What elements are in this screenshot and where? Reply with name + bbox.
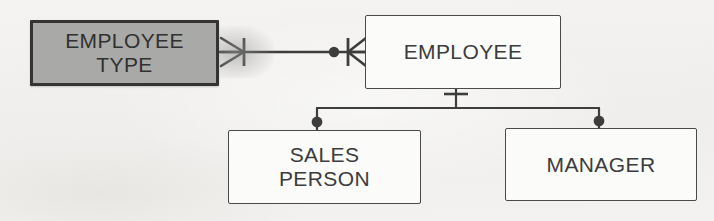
entity-box-employee-type[interactable]: EMPLOYEE TYPE xyxy=(30,20,219,86)
entity-box-employee[interactable]: EMPLOYEE xyxy=(365,15,561,89)
relationship-employee-type-to-employee xyxy=(219,38,366,66)
entity-box-manager[interactable]: MANAGER xyxy=(505,128,697,201)
entity-label-manager: MANAGER xyxy=(547,153,656,177)
optional-circle-right xyxy=(329,47,339,57)
entity-label-employee-type-line1: EMPLOYEE xyxy=(65,29,184,53)
optional-circle-manager xyxy=(594,116,605,127)
crowsfoot-marker-left xyxy=(221,38,244,66)
crowsfoot-marker-right xyxy=(348,38,366,66)
entity-label-sales-person-line2: PERSON xyxy=(279,167,370,191)
entity-box-sales-person[interactable]: SALES PERSON xyxy=(228,130,421,204)
zero-or-many-marker-right xyxy=(329,38,366,66)
entity-label-sales-person-line1: SALES xyxy=(290,143,360,167)
optional-circle-sales-person xyxy=(312,117,323,128)
subtype-hierarchy-connectors xyxy=(312,89,605,131)
entity-label-employee-type-line2: TYPE xyxy=(96,53,152,77)
entity-label-employee: EMPLOYEE xyxy=(404,40,523,64)
er-diagram-canvas: EMPLOYEE TYPE EMPLOYEE SALES PERSON MANA… xyxy=(0,0,714,221)
